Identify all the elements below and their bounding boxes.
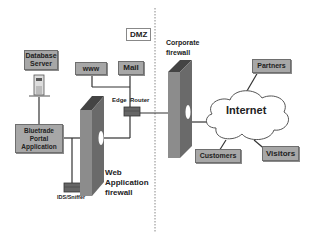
edge-router-icon xyxy=(124,107,140,116)
edge-router-label: Edge Router xyxy=(112,97,149,103)
ids-sniffer-icon xyxy=(64,183,81,192)
web-app-firewall-label: Web Application firewall xyxy=(105,168,155,198)
diagram-canvas xyxy=(0,0,309,239)
corporate-firewall-label: Corporate firewall xyxy=(166,38,206,58)
dmz-label: DMZ xyxy=(126,28,151,41)
partners-node[interactable]: Partners xyxy=(252,59,291,73)
customers-node[interactable]: Customers xyxy=(195,149,241,163)
ids-sniffer-label: IDS/Sniffer xyxy=(57,194,85,200)
visitors-node[interactable]: Visitors xyxy=(262,146,299,161)
corporate-firewall-icon xyxy=(168,60,192,158)
www-node[interactable]: www xyxy=(75,62,107,75)
mail-node[interactable]: Mail xyxy=(118,61,144,75)
internet-label: Internet xyxy=(226,104,266,116)
web-app-firewall-icon xyxy=(80,96,104,196)
database-server-icon xyxy=(29,75,50,96)
database-server-node[interactable]: Database Server xyxy=(24,50,58,70)
bluetrade-portal-node[interactable]: Bluetrade Portal Application xyxy=(15,124,63,153)
